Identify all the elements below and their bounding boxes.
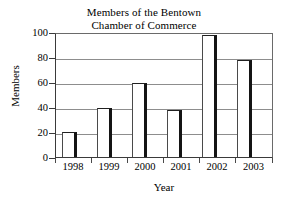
y-tick-label-60: 60 [8,78,48,88]
y-tick-label-80: 80 [8,53,48,63]
bar-chart: Members of the Bentown Chamber of Commer… [0,0,288,202]
x-axis-title: Year [55,181,273,193]
bar-2002 [202,35,217,158]
y-tick-label-100: 100 [8,28,48,38]
plot-area [55,33,273,158]
x-tick-label-1999: 1999 [91,161,127,173]
bar-2001 [167,110,182,158]
bar-2000 [132,83,147,157]
bar-1998 [62,132,77,157]
x-tick-label-2001: 2001 [163,161,199,173]
chart-title-line-1: Members of the Bentown [87,6,201,18]
x-tick-label-2002: 2002 [199,161,235,173]
y-axis-tick-labels: 100 80 60 40 20 0 [0,33,52,158]
x-tick-mark-6 [272,158,273,163]
bar-1999 [97,108,112,157]
x-tick-label-1998: 1998 [55,161,91,173]
y-tick-label-40: 40 [8,103,48,113]
bar-2003 [237,60,252,158]
x-tick-label-2003: 2003 [235,161,272,173]
y-tick-label-0: 0 [8,153,48,163]
y-tick-label-20: 20 [8,128,48,138]
x-tick-label-2000: 2000 [127,161,163,173]
